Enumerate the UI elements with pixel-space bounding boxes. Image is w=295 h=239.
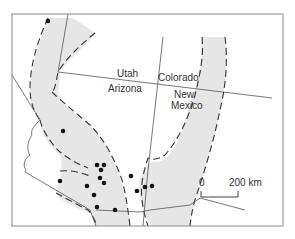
site-dot: [135, 189, 140, 194]
site-dot: [150, 184, 155, 189]
site-dot: [98, 176, 103, 181]
site-dot: [92, 193, 97, 198]
site-dot: [58, 179, 63, 184]
site-dot: [99, 168, 104, 173]
site-dot: [95, 205, 100, 210]
site-dot: [85, 184, 90, 189]
state-label-utah: Utah: [117, 69, 138, 79]
site-dot: [95, 163, 100, 168]
state-label-mexico: Mexico: [171, 101, 203, 111]
site-dot: [113, 208, 118, 213]
site-dot: [143, 185, 148, 190]
site-dot: [46, 19, 51, 24]
site-dot: [102, 163, 107, 168]
scale-label-start: 0: [199, 178, 205, 188]
scale-bar: [201, 191, 238, 197]
site-dot: [129, 174, 134, 179]
map-canvas: [0, 0, 295, 239]
site-dot: [61, 129, 66, 134]
state-label-colorado: Colorado: [158, 73, 199, 83]
state-label-new: New: [174, 90, 194, 100]
scale-label-end: 200 km: [229, 178, 262, 188]
site-dot: [102, 181, 107, 186]
state-label-arizona: Arizona: [108, 84, 142, 94]
